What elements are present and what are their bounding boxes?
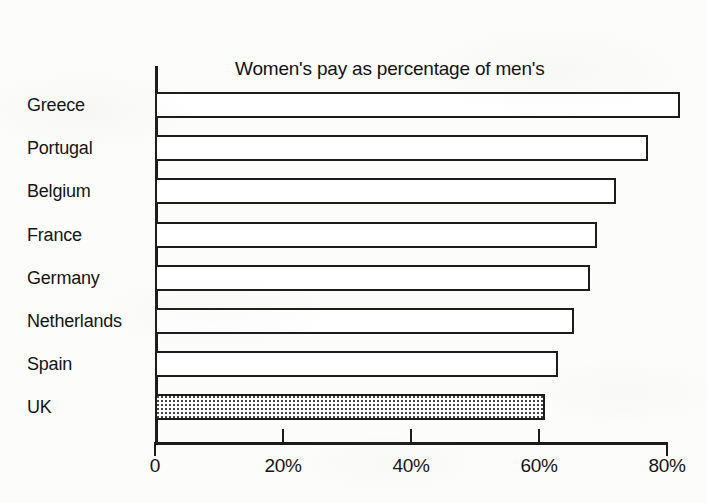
bar-france: [155, 222, 597, 248]
bar-row: [155, 265, 590, 291]
x-axis-tick-label: 0: [150, 455, 160, 477]
bar-belgium: [155, 178, 616, 204]
bar-row: [155, 308, 574, 334]
x-axis-tick-label: 20%: [264, 455, 301, 477]
category-label-uk: UK: [27, 397, 52, 417]
bar-row: [155, 351, 558, 377]
plot-area: GreecePortugalBelgiumFranceGermanyNether…: [0, 0, 707, 503]
category-label-france: France: [27, 225, 82, 245]
y-axis-line: [155, 66, 158, 445]
bar-netherlands: [155, 308, 574, 334]
x-axis-tick: [282, 429, 284, 443]
bar-row: [155, 178, 616, 204]
bar-greece: [155, 92, 680, 118]
bar-row: [155, 394, 545, 420]
x-axis-tick: [538, 429, 540, 443]
category-label-germany: Germany: [27, 268, 100, 288]
x-axis-tick-label: 40%: [392, 455, 429, 477]
bar-portugal: [155, 135, 648, 161]
bar-row: [155, 222, 597, 248]
x-axis-tick-label: 80%: [648, 455, 685, 477]
bar-row: [155, 92, 680, 118]
bar-row: [155, 135, 648, 161]
chart-page: Women's pay as percentage of men's In th…: [0, 0, 707, 503]
category-label-spain: Spain: [27, 354, 72, 374]
category-label-belgium: Belgium: [27, 181, 91, 201]
x-axis-tick: [410, 429, 412, 443]
bar-uk: [155, 394, 545, 420]
x-axis-tick-label: 60%: [520, 455, 557, 477]
bar-spain: [155, 351, 558, 377]
category-label-netherlands: Netherlands: [27, 311, 122, 331]
category-label-portugal: Portugal: [27, 138, 92, 158]
x-axis-tick: [666, 442, 668, 456]
x-axis-tick: [154, 442, 156, 456]
category-label-greece: Greece: [27, 95, 85, 115]
bar-germany: [155, 265, 590, 291]
